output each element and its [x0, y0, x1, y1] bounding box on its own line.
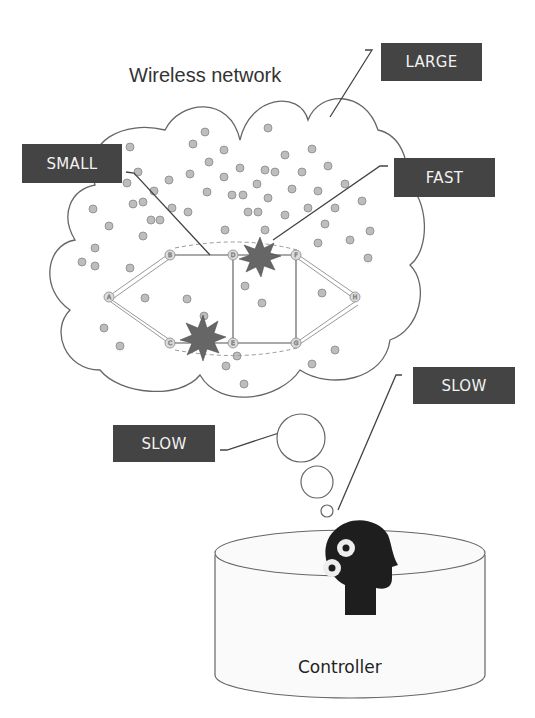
label-slow-controller: SLOW: [413, 367, 515, 404]
svg-text:F: F: [294, 251, 298, 258]
svg-text:H: H: [353, 293, 358, 300]
label-fast: FAST: [394, 158, 495, 197]
svg-text:B: B: [168, 251, 172, 258]
diagram-title: Wireless network: [129, 64, 281, 87]
controller-label: Controller: [298, 657, 382, 677]
svg-text:G: G: [294, 339, 299, 346]
label-small: SMALL: [22, 144, 122, 183]
label-large: LARGE: [381, 43, 482, 81]
svg-text:D: D: [231, 251, 236, 258]
diagram-canvas: A B C D E F G H: [0, 0, 535, 718]
svg-text:C: C: [168, 339, 172, 346]
svg-text:E: E: [231, 339, 235, 346]
label-slow-thought: SLOW: [113, 425, 215, 462]
thought-bubbles: [277, 414, 333, 517]
